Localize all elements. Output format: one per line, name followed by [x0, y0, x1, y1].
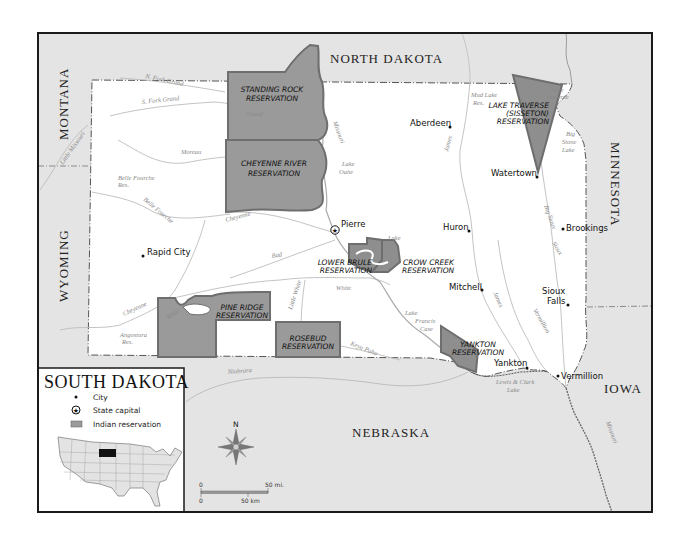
state-label-iowa: IOWA: [604, 381, 642, 396]
reservation-label-crow-creek: CROW CREEKRESERVATION: [402, 258, 455, 275]
city-label-huron: Huron: [443, 222, 469, 232]
scale-mi-label: 50 mi.: [265, 481, 284, 488]
water-label-lake-oahe: LakeOahe: [339, 160, 355, 175]
water-label-grand: Grand: [246, 110, 264, 117]
inset-south-dakota-highlight: [99, 449, 116, 457]
reservation-label-standing-rock: STANDING ROCKRESERVATION: [241, 85, 305, 103]
legend-label-indian-reservation: Indian reservation: [93, 420, 161, 429]
scale-mi-zero: 0: [199, 481, 203, 488]
city-label-brookings: Brookings: [566, 223, 609, 233]
state-label-north-dakota: NORTH DAKOTA: [330, 51, 443, 66]
state-label-minnesota: MINNESOTA: [608, 142, 623, 227]
city-dot-rapid-city: [142, 255, 145, 258]
legend-reservation-swatch: [71, 421, 82, 427]
legend: SOUTH DAKOTA City ★ State capital Indian…: [38, 368, 189, 512]
legend-label-city: City: [93, 393, 108, 402]
compass-north-label: N: [233, 420, 239, 429]
legend-city-icon: [75, 396, 78, 399]
city-dot-sioux-falls: [567, 304, 570, 307]
city-label-rapid-city: Rapid City: [147, 247, 190, 257]
city-dot-vermillion: [557, 375, 560, 378]
water-label-white-east: White: [336, 284, 351, 291]
city-label-vermillion: Vermillion: [561, 371, 603, 381]
city-label-pierre: Pierre: [341, 219, 365, 229]
water-label-moreau: Moreau: [180, 148, 202, 155]
state-label-montana: MONTANA: [56, 68, 71, 140]
scale-km-zero: 0: [199, 497, 203, 504]
legend-title: SOUTH DAKOTA: [44, 372, 189, 392]
svg-text:★: ★: [73, 407, 79, 415]
reservation-label-cheyenne-river: CHEYENNE RIVERRESERVATION: [241, 159, 307, 178]
water-label-lake-sharpe: Lake: [387, 234, 401, 241]
city-label-mitchell: Mitchell: [449, 282, 482, 292]
capital-symbol-pierre: ★: [331, 226, 339, 235]
legend-label-state-capital: State capital: [93, 406, 140, 415]
city-label-yankton: Yankton: [493, 358, 527, 368]
legend-capital-icon: ★: [72, 406, 80, 415]
scale-km-label: 50 km: [241, 497, 260, 504]
city-label-aberdeen: Aberdeen: [410, 118, 451, 128]
reservation-label-lower-brule: LOWER BRULERESERVATION: [318, 258, 373, 275]
city-label-watertown: Watertown: [491, 168, 537, 178]
state-label-wyoming: WYOMING: [56, 229, 71, 302]
reservation-label-pine-ridge: PINE RIDGERESERVATION: [216, 303, 269, 320]
state-label-nebraska: NEBRASKA: [352, 425, 430, 440]
south-dakota-map: NORTH DAKOTA MONTANA WYOMING MINNESOTA I…: [0, 0, 680, 546]
city-dot-brookings: [562, 228, 565, 231]
svg-text:★: ★: [332, 227, 338, 235]
